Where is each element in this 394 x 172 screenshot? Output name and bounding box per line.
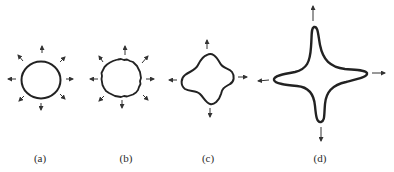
perturbed-circle-shape [102, 59, 142, 97]
four-pointed-star-shape [274, 27, 367, 122]
outward-arrows [169, 40, 247, 117]
panel-a: (a) [8, 46, 73, 165]
panel-d: (d) [258, 6, 385, 165]
panel-label-b: (b) [120, 152, 133, 165]
panel-label-c: (c) [202, 152, 215, 165]
outward-arrows [8, 46, 73, 110]
panel-label-a: (a) [34, 152, 47, 165]
panel-label-d: (d) [314, 152, 327, 165]
circle-shape [22, 62, 61, 99]
outward-arrows [90, 46, 154, 108]
panel-c: (c) [169, 40, 247, 165]
four-lobed-shape [182, 54, 234, 104]
panel-b: (b) [90, 46, 154, 165]
growth-instability-diagram: (a) (b) (c) [0, 0, 394, 172]
